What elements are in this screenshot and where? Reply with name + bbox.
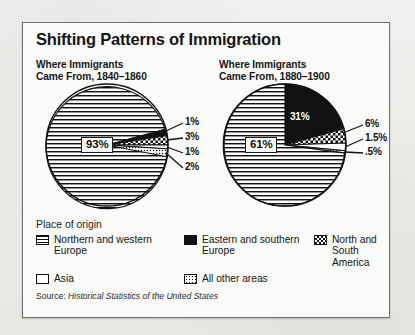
legend-swatch-blank-white-icon — [36, 274, 49, 284]
legend-spacer — [314, 273, 380, 284]
pie1-callout-1pct-asia: 1% — [185, 146, 199, 157]
legend-label-asia: Asia — [54, 273, 74, 284]
source-prefix: Source: — [36, 291, 66, 301]
pie1-callout-3pct-americas: 3% — [185, 131, 199, 142]
legend-item-northern-western-europe: Northern and western Europe — [36, 234, 184, 268]
panel-heading-left: Where Immigrants Came From, 1840–1860 — [36, 59, 147, 82]
pie1-label-93: 93% — [81, 137, 113, 153]
panel-heading-right-line1: Where Immigrants — [219, 59, 330, 71]
pie1-callout-1pct-east: 1% — [185, 116, 199, 127]
legend-item-north-south-america: North and South America — [314, 234, 380, 268]
legend-label-northern-western-europe: Northern and western Europe — [54, 234, 184, 257]
source-title: Historical Statistics of the United Stat… — [68, 291, 218, 301]
pie-charts-area: 93% 61% 31% 1% 3% 1% 2% 6% 1.5% .5% — [23, 83, 391, 211]
pie-chart-1840-1860 — [46, 84, 183, 209]
legend-label-eastern-southern-europe: Eastern and southern Europe — [202, 234, 314, 257]
figure-title: Shifting Patterns of Immigration — [36, 30, 281, 49]
legend-title: Place of origin — [36, 219, 380, 230]
pie1-callout-2pct-other: 2% — [185, 161, 199, 172]
legend-swatch-dotted-icon — [184, 274, 197, 284]
legend-item-eastern-southern-europe: Eastern and southern Europe — [184, 234, 314, 268]
pie2-callout-1-5pct-asia: 1.5% — [365, 132, 387, 143]
pie2-label-31: 31% — [290, 111, 309, 122]
source-note: Source: Historical Statistics of the Uni… — [36, 291, 218, 301]
pie-charts-svg — [23, 83, 391, 211]
legend-item-asia: Asia — [36, 273, 184, 284]
panel-heading-left-line2: Came From, 1840–1860 — [36, 71, 147, 83]
legend-swatch-checkerboard-icon — [314, 235, 327, 245]
pie2-label-61: 61% — [245, 137, 277, 153]
figure-frame: Shifting Patterns of Immigration Where I… — [22, 22, 390, 318]
legend-item-all-other-areas: All other areas — [184, 273, 314, 284]
pie2-callout-6pct-americas: 6% — [365, 118, 379, 129]
legend-label-north-south-america: North and South America — [332, 234, 380, 268]
panel-heading-right: Where Immigrants Came From, 1880–1900 — [219, 59, 330, 82]
pie2-callout-point5pct-other: .5% — [365, 146, 382, 157]
legend-label-all-other-areas: All other areas — [202, 273, 268, 284]
legend: Place of origin Northern and western Eur… — [36, 219, 380, 285]
legend-swatch-horizontal-stripes-icon — [36, 235, 49, 245]
panel-heading-right-line2: Came From, 1880–1900 — [219, 71, 330, 83]
legend-grid: Northern and western Europe Eastern and … — [36, 234, 380, 285]
legend-swatch-solid-black-icon — [184, 235, 197, 245]
panel-heading-left-line1: Where Immigrants — [36, 59, 147, 71]
